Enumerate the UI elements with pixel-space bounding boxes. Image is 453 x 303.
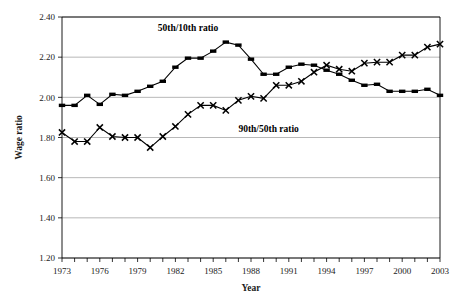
series-annotation-1: 90th/50th ratio bbox=[238, 124, 299, 134]
x-tick-label-1976: 1976 bbox=[91, 266, 110, 276]
data-point-0-1998 bbox=[374, 83, 380, 86]
y-tick-label-2.20: 2.20 bbox=[39, 52, 55, 62]
x-tick-label-1979: 1979 bbox=[129, 266, 148, 276]
data-point-0-1987 bbox=[235, 43, 241, 46]
x-tick-label-1994: 1994 bbox=[318, 266, 337, 276]
data-point-0-2002 bbox=[424, 88, 430, 91]
x-tick-label-1988: 1988 bbox=[242, 266, 261, 276]
data-point-0-2001 bbox=[412, 90, 418, 93]
y-tick-label-2.40: 2.40 bbox=[39, 12, 55, 22]
data-point-0-1975 bbox=[84, 94, 90, 97]
data-point-0-1988 bbox=[248, 57, 254, 60]
series-annotation-0: 50th/10th ratio bbox=[158, 23, 219, 33]
data-point-0-1990 bbox=[273, 73, 279, 76]
data-point-0-1997 bbox=[361, 84, 367, 87]
data-point-0-1999 bbox=[386, 90, 392, 93]
y-tick-label-2.00: 2.00 bbox=[39, 93, 55, 103]
y-axis-title: Wage ratio bbox=[14, 115, 24, 160]
data-point-0-1979 bbox=[134, 90, 140, 93]
data-point-0-1982 bbox=[172, 66, 178, 69]
x-tick-label-2003: 2003 bbox=[431, 266, 450, 276]
data-point-0-1977 bbox=[109, 93, 115, 96]
data-point-0-1991 bbox=[286, 66, 292, 69]
data-point-0-1985 bbox=[210, 49, 216, 52]
data-point-0-1996 bbox=[349, 79, 355, 82]
data-point-0-1994 bbox=[323, 69, 329, 72]
y-tick-label-1.20: 1.20 bbox=[39, 253, 55, 263]
data-point-0-2000 bbox=[399, 90, 405, 93]
data-point-0-2003 bbox=[437, 94, 443, 97]
data-point-0-1995 bbox=[336, 73, 342, 76]
data-point-0-1983 bbox=[185, 56, 191, 59]
x-tick-label-1985: 1985 bbox=[204, 266, 223, 276]
data-point-0-1973 bbox=[59, 104, 65, 107]
data-point-0-1992 bbox=[298, 63, 304, 66]
data-point-0-1974 bbox=[71, 104, 77, 107]
data-point-0-1981 bbox=[160, 80, 166, 83]
data-point-0-1978 bbox=[122, 94, 128, 97]
y-tick-label-1.80: 1.80 bbox=[39, 133, 55, 143]
data-point-0-1980 bbox=[147, 85, 153, 88]
x-axis-title: Year bbox=[242, 283, 262, 293]
x-tick-label-1982: 1982 bbox=[166, 266, 184, 276]
data-point-0-1984 bbox=[197, 56, 203, 59]
wage-ratio-chart-figure: 1.201.401.601.802.002.202.40 19731976197… bbox=[0, 0, 453, 303]
y-tick-label-1.60: 1.60 bbox=[39, 173, 55, 183]
x-tick-label-1991: 1991 bbox=[280, 266, 298, 276]
data-point-0-1993 bbox=[311, 64, 317, 67]
y-tick-label-1.40: 1.40 bbox=[39, 213, 55, 223]
x-tick-label-2000: 2000 bbox=[393, 266, 412, 276]
x-tick-label-1973: 1973 bbox=[53, 266, 72, 276]
data-point-0-1989 bbox=[260, 73, 266, 76]
data-point-0-1976 bbox=[97, 103, 103, 106]
data-point-0-1986 bbox=[223, 40, 229, 43]
x-tick-label-1997: 1997 bbox=[355, 266, 374, 276]
wage-ratio-line-chart: 1.201.401.601.802.002.202.40 19731976197… bbox=[0, 0, 453, 303]
